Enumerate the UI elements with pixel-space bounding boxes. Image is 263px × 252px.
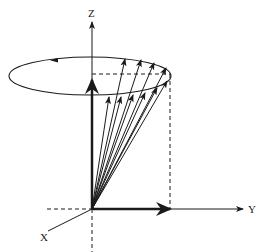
precession-diagram: Z Y X: [0, 0, 263, 252]
y-axis-label: Y: [248, 203, 256, 215]
x-axis: [48, 209, 92, 231]
precession-ellipse: [9, 57, 171, 95]
x-axis-label: X: [40, 231, 48, 243]
precessing-vectors: [92, 59, 167, 209]
z-axis-label: Z: [88, 7, 95, 19]
